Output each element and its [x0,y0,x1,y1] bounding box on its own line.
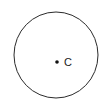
geometry-figure: C [0,0,108,112]
circle-diagram-canvas: C [0,0,108,112]
center-label: C [64,56,72,68]
circle-outline [14,12,98,98]
center-dot [55,60,59,64]
